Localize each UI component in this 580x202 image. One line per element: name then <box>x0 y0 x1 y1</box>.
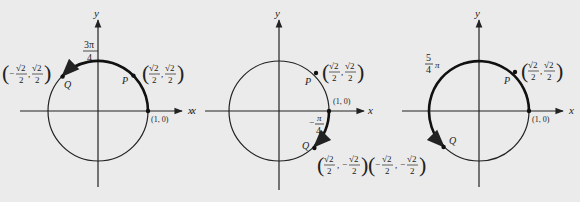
svg-text:√2: √2 <box>544 60 553 70</box>
arc-path <box>63 61 148 111</box>
svg-text:−: − <box>375 159 380 169</box>
svg-text:2: 2 <box>531 72 536 82</box>
svg-text:√2: √2 <box>324 154 333 164</box>
svg-text:2: 2 <box>152 75 157 85</box>
q-label: Q <box>64 79 72 90</box>
svg-text:√2: √2 <box>149 63 158 73</box>
p-coordinate: ( √2 2 , √2 2 ) <box>322 59 364 84</box>
q-coordinate: ( √2 2 , − √2 2 ) <box>317 152 368 177</box>
p-label: P <box>503 75 510 86</box>
unit-circle-diagrams: x y (1, 0) P Q 3π 4 ( √2 2 , √2 2 ) ( − <box>0 0 580 202</box>
svg-text:2: 2 <box>410 166 415 176</box>
y-axis-label: y <box>274 7 280 19</box>
svg-text:): ) <box>556 58 563 83</box>
svg-text:2: 2 <box>547 72 552 82</box>
x-axis-label: x <box>367 104 373 116</box>
svg-text:√2: √2 <box>382 154 391 164</box>
x-axis-left-label: x <box>190 104 196 116</box>
point-one-zero <box>527 109 531 113</box>
svg-text:2: 2 <box>35 75 40 85</box>
svg-text:−: − <box>400 159 405 169</box>
svg-text:2: 2 <box>385 166 390 176</box>
angle-denominator: 4 <box>426 64 431 75</box>
point-p <box>513 70 517 74</box>
svg-text:): ) <box>357 59 364 84</box>
p-coordinate: ( √2 2 , √2 2 ) <box>142 60 184 85</box>
svg-text:): ) <box>44 60 51 85</box>
p-label: P <box>121 75 128 86</box>
point-one-zero <box>327 109 331 113</box>
y-axis-label: y <box>474 7 480 19</box>
q-coordinate: ( − √2 2 , √2 2 ) <box>2 60 51 85</box>
point-p <box>131 73 135 77</box>
svg-text:√2: √2 <box>16 63 25 73</box>
svg-text:√2: √2 <box>407 154 416 164</box>
svg-text:−: − <box>342 159 347 169</box>
angle-sign: − <box>309 117 314 127</box>
angle-numerator: 5 <box>426 52 431 63</box>
svg-text:√2: √2 <box>345 61 354 71</box>
svg-text:,: , <box>337 160 339 170</box>
point-p <box>314 71 318 75</box>
svg-text:√2: √2 <box>329 61 338 71</box>
one-zero-label: (1, 0) <box>532 115 550 124</box>
svg-text:√2: √2 <box>165 63 174 73</box>
svg-text:,: , <box>395 160 397 170</box>
svg-text:−: − <box>9 68 14 78</box>
panel-middle: x x y (1, 0) P Q − π 4 ( √2 2 , √2 2 ) <box>190 7 426 190</box>
q-coordinate-right-panel: ( − √2 2 , − √2 2 ) <box>368 152 426 177</box>
panel-right: x y (1, 0) P Q 5 4 π ( √2 2 , √2 2 ) <box>402 7 574 187</box>
svg-text:2: 2 <box>19 75 24 85</box>
panel-left: x y (1, 0) P Q 3π 4 ( √2 2 , √2 2 ) ( − <box>2 7 193 187</box>
p-label: P <box>304 76 311 87</box>
svg-text:2: 2 <box>327 166 332 176</box>
svg-text:2: 2 <box>168 75 173 85</box>
p-coordinate: ( √2 2 , √2 2 ) <box>521 58 563 83</box>
angle-pi: π <box>435 60 440 70</box>
svg-text:,: , <box>28 69 30 79</box>
svg-text:,: , <box>341 67 343 77</box>
angle-numerator: π <box>317 113 322 123</box>
one-zero-label: (1, 0) <box>333 97 351 106</box>
svg-text:2: 2 <box>352 166 357 176</box>
svg-text:√2: √2 <box>32 63 41 73</box>
y-axis-label: y <box>93 7 99 19</box>
point-one-zero <box>146 109 150 113</box>
x-axis-label: x <box>568 104 574 116</box>
svg-text:√2: √2 <box>528 60 537 70</box>
svg-text:): ) <box>177 60 184 85</box>
svg-text:√2: √2 <box>349 154 358 164</box>
angle-numerator: 3π <box>84 39 94 50</box>
svg-text:): ) <box>419 152 426 177</box>
q-label: Q <box>302 140 310 151</box>
one-zero-label: (1, 0) <box>151 115 169 124</box>
angle-denominator: 4 <box>316 125 321 136</box>
point-q <box>312 146 316 150</box>
svg-text:2: 2 <box>348 73 353 83</box>
q-label: Q <box>449 135 457 146</box>
svg-text:,: , <box>540 66 542 76</box>
svg-text:,: , <box>161 69 163 79</box>
svg-text:2: 2 <box>332 73 337 83</box>
point-q <box>441 145 445 149</box>
angle-denominator: 4 <box>87 52 92 63</box>
